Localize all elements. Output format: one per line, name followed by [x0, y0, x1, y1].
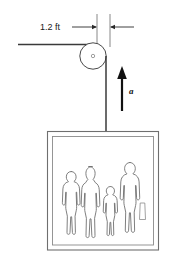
dimension-group: 1.2 ft: [40, 14, 134, 47]
pulley-group: [80, 43, 106, 69]
elevator-car: [48, 132, 159, 251]
dimension-arrowhead-left: [92, 25, 97, 30]
acceleration-label: a: [129, 86, 134, 96]
dimension-label: 1.2 ft: [40, 22, 61, 32]
occupant-carried-item: [140, 203, 146, 220]
pulley-axle-hub-icon: [91, 54, 94, 57]
pulley-elevator-figure: 1.2 ft a: [0, 0, 175, 261]
figure-canvas: 1.2 ft a: [0, 0, 175, 261]
acceleration-vector-group: a: [117, 66, 134, 111]
acceleration-arrowhead: [117, 66, 127, 79]
dimension-arrowhead-right: [110, 25, 115, 30]
